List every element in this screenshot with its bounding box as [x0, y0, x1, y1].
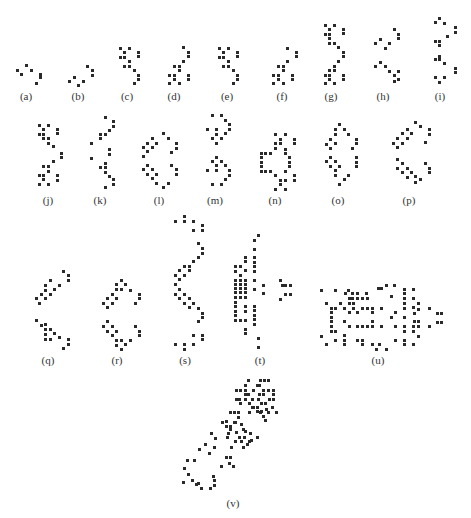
- cell: [356, 325, 359, 328]
- cell: [62, 347, 65, 350]
- cell: [73, 76, 76, 79]
- cell: [215, 156, 218, 159]
- cell: [374, 65, 377, 68]
- cell: [178, 69, 181, 72]
- cell: [264, 419, 267, 422]
- cell: [282, 82, 285, 85]
- cell: [106, 297, 109, 300]
- cell: [251, 406, 254, 409]
- cell: [397, 70, 400, 73]
- cell: [175, 168, 178, 171]
- cell: [25, 64, 28, 67]
- cell: [257, 398, 260, 401]
- cell: [124, 283, 127, 286]
- cell: [167, 137, 170, 140]
- cell: [40, 293, 43, 296]
- cell: [215, 133, 218, 136]
- cell: [259, 411, 262, 414]
- cell: [262, 292, 265, 295]
- cell: [112, 125, 115, 128]
- cell: [162, 132, 165, 135]
- cell: [201, 338, 204, 341]
- cell: [361, 343, 364, 346]
- cell: [401, 171, 404, 174]
- cell: [232, 82, 235, 85]
- cell: [253, 279, 256, 282]
- cell: [188, 297, 191, 300]
- cell: [396, 137, 399, 140]
- cell: [361, 325, 364, 328]
- cell: [434, 21, 437, 24]
- cell: [247, 393, 250, 396]
- cell: [44, 284, 47, 287]
- cell: [244, 319, 247, 322]
- cell: [222, 65, 225, 68]
- cell: [104, 166, 107, 169]
- cell: [213, 479, 216, 482]
- cell: [91, 74, 94, 77]
- panel-label-g: (g): [325, 90, 338, 102]
- cell: [238, 436, 241, 439]
- cell: [102, 302, 105, 305]
- cell: [330, 307, 333, 310]
- cell: [428, 167, 431, 170]
- cell: [236, 74, 239, 77]
- cell: [151, 146, 154, 149]
- cell: [134, 302, 137, 305]
- cell: [325, 302, 328, 305]
- cell: [106, 330, 109, 333]
- cell: [234, 314, 237, 317]
- cell: [211, 183, 214, 186]
- cell: [293, 138, 296, 141]
- cell: [253, 323, 256, 326]
- cell: [454, 26, 457, 29]
- cell: [142, 155, 145, 158]
- cell: [62, 270, 65, 273]
- panel-label-p: (p): [403, 194, 416, 206]
- cell: [234, 283, 237, 286]
- cell: [198, 448, 201, 451]
- cell: [187, 473, 190, 476]
- cell: [220, 160, 223, 163]
- cell: [396, 167, 399, 170]
- cell: [133, 82, 136, 85]
- cell: [414, 175, 417, 178]
- cell: [235, 431, 238, 434]
- cell: [334, 133, 337, 136]
- cell: [417, 308, 420, 311]
- cell: [239, 291, 242, 294]
- cell: [260, 170, 263, 173]
- cell: [355, 165, 358, 168]
- cell: [129, 339, 132, 342]
- cell: [438, 17, 441, 20]
- cell: [406, 137, 409, 140]
- cell: [272, 82, 275, 85]
- cell: [385, 284, 388, 287]
- cell: [324, 74, 327, 77]
- cell: [192, 343, 195, 346]
- panel-label-f: (f): [277, 90, 288, 102]
- cell: [197, 256, 200, 259]
- cell: [67, 274, 70, 277]
- cell: [104, 186, 107, 189]
- panel-label-b: (b): [72, 90, 85, 102]
- cell: [337, 46, 340, 49]
- cell: [215, 142, 218, 145]
- cell: [233, 411, 236, 414]
- cell: [38, 133, 41, 136]
- cell: [173, 74, 176, 77]
- cell: [234, 440, 237, 443]
- cell: [112, 120, 115, 123]
- cell: [343, 343, 346, 346]
- cell: [293, 179, 296, 182]
- cell: [47, 137, 50, 140]
- cell: [438, 44, 441, 47]
- cell: [440, 312, 443, 315]
- cell: [334, 128, 337, 131]
- cell: [238, 398, 241, 401]
- cell: [406, 128, 409, 131]
- cell: [403, 297, 406, 300]
- panel-label-d: (d): [168, 90, 181, 102]
- cell: [106, 306, 109, 309]
- figure-canvas: (a)(b)(c)(d)(e)(f)(g)(h)(i)(j)(k)(l)(m)(…: [0, 0, 471, 518]
